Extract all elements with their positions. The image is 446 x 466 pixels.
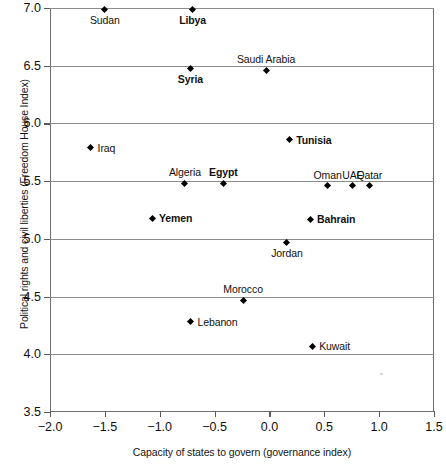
- data-point-marker: [366, 182, 373, 189]
- data-point-label: Kuwait: [319, 340, 350, 352]
- gridline: [50, 123, 434, 124]
- data-point-label: Saudi Arabia: [237, 53, 295, 65]
- data-point-label: Jordan: [271, 247, 303, 259]
- y-tick-label: 6.5: [24, 59, 41, 73]
- data-point-label: Lebanon: [197, 316, 237, 328]
- y-tick-mark: [44, 239, 50, 240]
- x-tick-label: 0.5: [316, 420, 333, 434]
- x-tick-label: 0.0: [261, 420, 278, 434]
- data-point-marker: [189, 6, 196, 13]
- x-tick-label: −2.0: [38, 420, 63, 434]
- x-tick-label: −1.5: [93, 420, 118, 434]
- data-point-label: Oman: [313, 169, 341, 181]
- data-point-label: Qatar: [356, 169, 382, 181]
- data-point-marker: [87, 144, 94, 151]
- x-tick-label: −0.5: [202, 420, 227, 434]
- data-point-marker: [309, 343, 316, 350]
- data-point-label: Syria: [178, 73, 203, 85]
- y-tick-mark: [44, 181, 50, 182]
- scatter-chart-figure: Political rights and civil liberties (Fr…: [0, 0, 446, 466]
- gridline: [50, 181, 434, 182]
- x-tick-mark: [215, 411, 216, 417]
- x-tick-mark: [50, 411, 51, 417]
- artifact-speck: [380, 373, 383, 375]
- gridline: [50, 66, 434, 67]
- plot-right-edge: [433, 8, 434, 412]
- y-tick-mark: [44, 8, 50, 9]
- y-tick-label: 5.5: [24, 174, 41, 188]
- x-tick-mark: [269, 411, 270, 417]
- x-tick-label: 1.0: [370, 420, 387, 434]
- x-tick-mark: [324, 411, 325, 417]
- plot-area: 3.54.04.55.05.56.06.57.0 −2.0−1.5−1.0−0.…: [50, 8, 434, 412]
- y-tick-label: 5.0: [24, 232, 41, 246]
- y-tick-label: 4.5: [24, 290, 41, 304]
- y-tick-mark: [44, 66, 50, 67]
- gridline: [50, 354, 434, 355]
- gridline: [50, 239, 434, 240]
- data-point-label: Iraq: [98, 142, 116, 154]
- data-point-marker: [148, 215, 155, 222]
- data-point-marker: [324, 182, 331, 189]
- x-tick-mark: [379, 411, 380, 417]
- x-tick-label: −1.0: [147, 420, 172, 434]
- data-point-marker: [349, 182, 356, 189]
- data-point-label: Algeria: [169, 166, 201, 178]
- y-tick-mark: [44, 297, 50, 298]
- y-tick-label: 6.0: [24, 116, 41, 130]
- y-tick-label: 3.5: [24, 405, 41, 419]
- data-point-label: Yemen: [159, 212, 192, 224]
- data-point-marker: [101, 6, 108, 13]
- x-tick-mark: [434, 411, 435, 417]
- data-point-label: Tunisia: [296, 134, 331, 146]
- data-point-label: Bahrain: [317, 213, 355, 225]
- y-tick-mark: [44, 123, 50, 124]
- x-tick-mark: [160, 411, 161, 417]
- data-point-label: Egypt: [209, 166, 238, 178]
- data-point-marker: [263, 67, 270, 74]
- y-tick-mark: [44, 354, 50, 355]
- x-axis-line: [50, 411, 434, 412]
- data-point-label: Sudan: [90, 14, 120, 26]
- data-point-marker: [187, 318, 194, 325]
- y-axis-line: [50, 8, 51, 412]
- data-point-marker: [306, 216, 313, 223]
- data-point-label: Libya: [179, 14, 206, 26]
- x-axis-title: Capacity of states to govern (governance…: [50, 446, 434, 458]
- data-point-label: Morocco: [223, 283, 263, 295]
- x-tick-mark: [105, 411, 106, 417]
- y-tick-label: 4.0: [24, 347, 41, 361]
- y-tick-label: 7.0: [24, 1, 41, 15]
- data-point-marker: [286, 136, 293, 143]
- x-tick-label: 1.5: [425, 420, 442, 434]
